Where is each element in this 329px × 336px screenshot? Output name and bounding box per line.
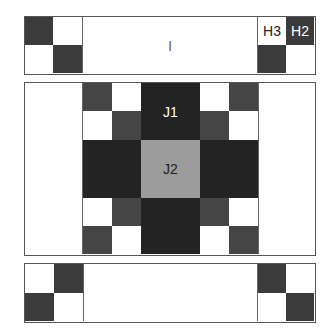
mid-bl-checker-4 — [112, 226, 141, 254]
mid-bl-checker-3 — [83, 226, 112, 254]
middle-divider-right — [258, 83, 259, 254]
mid-tl-checker-1 — [83, 83, 112, 111]
mid-tr-checker-1 — [200, 83, 229, 111]
bottom-right-checker-white-2 — [258, 293, 286, 321]
top-right-checker-white — [286, 45, 314, 73]
bottom-right-checker-dark-1 — [258, 264, 286, 293]
bottom-right-checker-white-1 — [286, 264, 314, 293]
mid-bottom-arm — [141, 198, 200, 254]
mid-br-checker-4 — [229, 226, 258, 254]
mid-tl-checker-3 — [83, 111, 112, 140]
bottom-left-checker-white-2 — [54, 293, 83, 321]
bottom-left-checker-white-1 — [25, 264, 54, 293]
block-label-j1: J1 — [141, 83, 200, 140]
mid-bl-checker-2 — [112, 198, 141, 226]
top-left-checker-white-2 — [25, 45, 53, 73]
top-left-checker-dark-2 — [53, 45, 82, 73]
top-panel: I H3 H2 — [24, 16, 316, 75]
block-label-i: I — [83, 17, 257, 73]
mid-br-checker-1 — [200, 198, 229, 226]
top-left-checker-white-1 — [53, 17, 82, 45]
bottom-left-checker-dark-2 — [25, 293, 54, 321]
mid-br-checker-3 — [200, 226, 229, 254]
middle-panel: J1 J2 — [24, 82, 316, 256]
top-right-checker-dark — [258, 45, 286, 73]
block-label-h3: H3 — [258, 17, 286, 45]
bottom-divider-left — [83, 264, 84, 321]
bottom-right-checker-dark-2 — [286, 293, 314, 321]
mid-right-arm — [200, 140, 258, 198]
bottom-left-checker-dark-1 — [54, 264, 83, 293]
mid-bl-checker-1 — [83, 198, 112, 226]
mid-tl-checker-4 — [112, 111, 141, 140]
mid-tr-checker-4 — [229, 111, 258, 140]
mid-tr-checker-2 — [229, 83, 258, 111]
block-label-h2: H2 — [286, 17, 314, 45]
mid-br-checker-2 — [229, 198, 258, 226]
block-label-j2: J2 — [141, 140, 200, 198]
mid-left-arm — [83, 140, 141, 198]
top-left-checker-dark-1 — [25, 17, 53, 45]
mid-tr-checker-3 — [200, 111, 229, 140]
mid-tl-checker-2 — [112, 83, 141, 111]
bottom-panel — [24, 263, 316, 323]
